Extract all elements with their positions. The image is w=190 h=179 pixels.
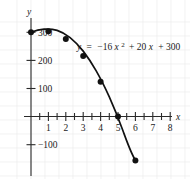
x-tick-label-7: 7 [150, 123, 155, 133]
x-tick-label-2: 2 [63, 123, 68, 133]
equation-term1-var: x [114, 42, 120, 52]
data-point [98, 79, 104, 85]
plot-background [0, 0, 190, 179]
equation-term1-exponent: 2 [121, 41, 125, 49]
graph-figure: 1 2 3 4 5 6 7 8 300 200 100 −100 x y [0, 0, 190, 179]
x-tick-label-4: 4 [98, 123, 103, 133]
x-tick-label-8: 8 [168, 123, 173, 133]
x-tick-label-3: 3 [81, 123, 86, 133]
x-axis-label: x [175, 112, 181, 122]
equation-equals: = [87, 42, 92, 52]
parabola-plot: 1 2 3 4 5 6 7 8 300 200 100 −100 x y [0, 0, 190, 179]
data-point [115, 114, 121, 120]
data-point [28, 29, 34, 35]
y-tick-label-100: 100 [38, 84, 53, 94]
equation-term2: + 20 [129, 42, 146, 52]
equation-term1-coef: −16 [97, 42, 112, 52]
equation-lhs: y [76, 42, 82, 52]
equation-term2-var: x [148, 42, 154, 52]
y-axis-label: y [26, 7, 32, 17]
x-tick-label-6: 6 [133, 123, 138, 133]
y-tick-label-200: 200 [38, 56, 53, 66]
y-tick-label-neg100: −100 [38, 140, 58, 150]
data-point [80, 53, 86, 59]
data-point [45, 28, 51, 34]
data-point [132, 157, 138, 163]
x-tick-label-1: 1 [46, 123, 51, 133]
equation-term3: + 300 [158, 42, 180, 52]
data-point [63, 36, 69, 42]
